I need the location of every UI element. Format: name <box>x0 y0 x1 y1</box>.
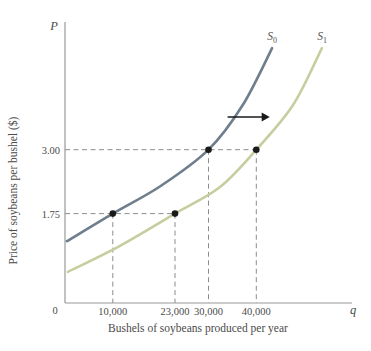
shift-arrow-head <box>262 113 270 122</box>
x-axis-title: Bushels of soybeans produced per year <box>58 322 338 334</box>
supply-curve-s0 <box>67 48 272 241</box>
curve-label-s1: S1 <box>313 30 331 45</box>
y-tick-label: 3.00 <box>42 144 60 155</box>
data-point-s1 <box>253 146 260 153</box>
x-tick-label: 40,000 <box>242 306 271 317</box>
x-tick-label: 30,000 <box>194 306 223 317</box>
data-point-s0 <box>110 210 117 217</box>
curve-label-s0: S0 <box>263 30 281 45</box>
supply-chart-canvas <box>0 0 371 351</box>
data-point-s1 <box>172 210 179 217</box>
supply-shift-figure: P q 0 Price of soybeans per bushel ($) B… <box>0 0 371 351</box>
y-axis-symbol: P <box>46 19 62 34</box>
x-axis-symbol: q <box>345 303 361 318</box>
curve-label-s1-sub: 1 <box>323 36 327 45</box>
x-tick-label: 23,000 <box>161 306 190 317</box>
y-axis-title: Price of soybeans per bushel ($) <box>7 105 22 277</box>
x-tick-label: 10,000 <box>98 306 127 317</box>
curve-label-s0-sub: 0 <box>273 36 277 45</box>
data-point-s0 <box>205 146 212 153</box>
y-tick-label: 1.75 <box>42 208 60 219</box>
origin-label: 0 <box>47 305 63 316</box>
